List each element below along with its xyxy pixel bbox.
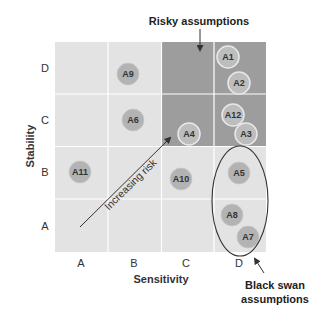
assumption-bubble-a4: A4: [178, 123, 200, 145]
assumption-bubble-a10: A10: [170, 168, 192, 190]
x-tick-c: C: [182, 257, 190, 269]
y-axis: D C B A Stability: [24, 62, 49, 232]
pointer-arrow-icon: [255, 259, 264, 273]
black-swan-label-line2: assumptions: [241, 293, 309, 305]
assumption-bubble-a11: A11: [69, 161, 91, 183]
assumption-bubble-a5: A5: [228, 162, 250, 184]
x-tick-a: A: [77, 257, 85, 269]
assumption-bubble-a8: A8: [221, 204, 243, 226]
assumption-bubble-a1: A1: [217, 46, 239, 68]
bubble-label: A3: [240, 129, 252, 139]
bubble-label: A6: [127, 115, 139, 125]
assumption-bubble-a7: A7: [237, 226, 259, 248]
bubble-label: A9: [122, 69, 134, 79]
bubble-label: A4: [183, 129, 195, 139]
y-tick-d: D: [41, 62, 49, 74]
bubble-label: A11: [72, 167, 88, 177]
x-axis: A B C D Sensitivity: [77, 257, 243, 285]
y-tick-a: A: [41, 220, 49, 232]
black-swan-label-line1: Black swan: [245, 279, 305, 291]
assumption-bubble-a3: A3: [235, 123, 257, 145]
bubble-label: A8: [226, 210, 238, 220]
bubble-label: A12: [225, 110, 242, 120]
x-axis-title: Sensitivity: [133, 273, 189, 285]
x-tick-b: B: [130, 257, 137, 269]
black-swan-callout: Black swan assumptions: [241, 259, 309, 305]
y-axis-title: Stability: [24, 124, 36, 168]
risk-matrix-diagram: D C B A Stability A B C D Sensitivity In…: [0, 0, 316, 321]
y-tick-c: C: [41, 114, 49, 126]
assumption-bubble-a12: A12: [222, 104, 244, 126]
x-tick-d: D: [235, 257, 243, 269]
bubble-label: A10: [173, 174, 190, 184]
assumption-bubble-a2: A2: [228, 72, 250, 94]
bubble-label: A1: [222, 52, 234, 62]
bubble-label: A7: [242, 232, 254, 242]
bubble-label: A2: [233, 78, 245, 88]
risky-assumptions-label: Risky assumptions: [149, 15, 249, 27]
assumption-bubble-a9: A9: [117, 63, 139, 85]
bubble-label: A5: [233, 168, 245, 178]
assumption-bubble-a6: A6: [122, 109, 144, 131]
y-tick-b: B: [41, 166, 48, 178]
